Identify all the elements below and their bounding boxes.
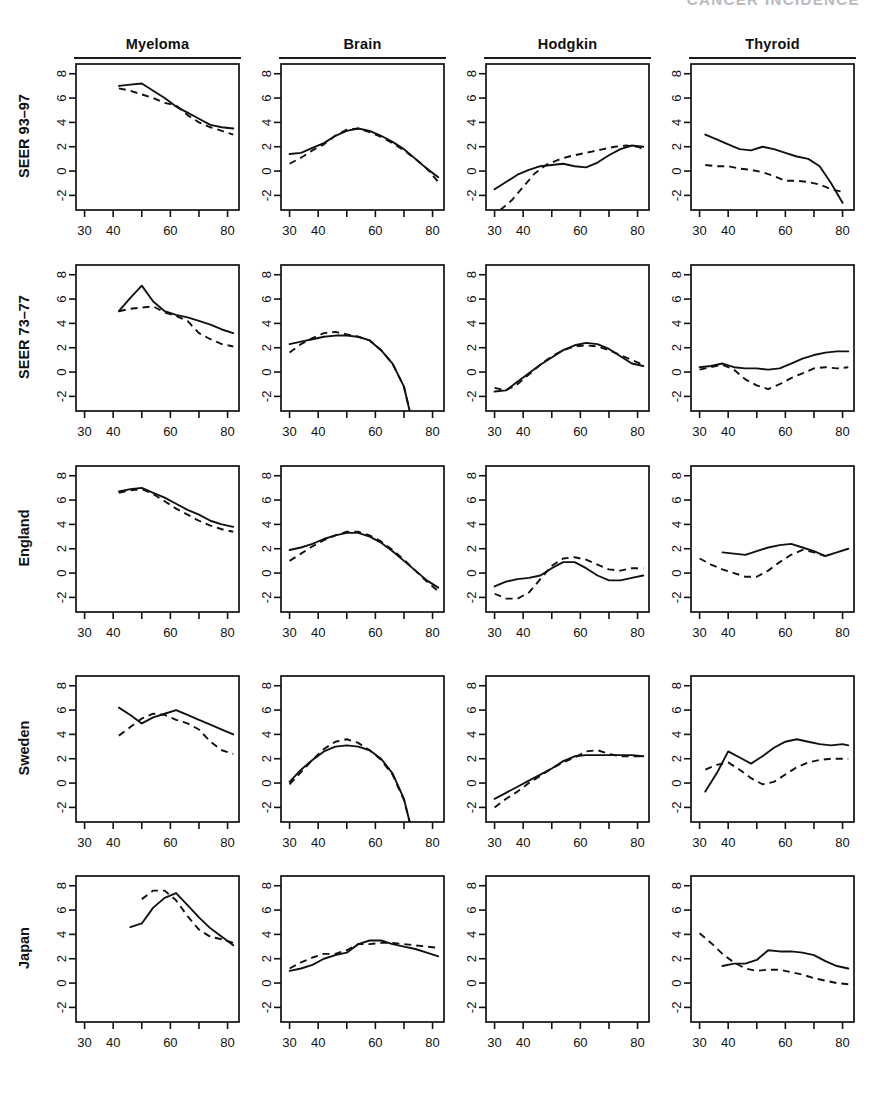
y-tick-label: 6 <box>465 706 480 713</box>
panel-japan-hodgkin: 30406080-202468 <box>440 866 661 1062</box>
x-tick-label: 30 <box>282 835 296 850</box>
curve-dashed <box>495 345 644 390</box>
plot-box <box>76 64 239 210</box>
y-tick-label: 4 <box>55 320 70 327</box>
x-tick-label: 30 <box>487 424 501 439</box>
column-header-myeloma: Myeloma <box>76 36 239 52</box>
x-tick-label: 30 <box>282 1035 296 1050</box>
x-tick-label: 80 <box>220 223 234 238</box>
x-tick-label: 80 <box>835 424 849 439</box>
x-tick-label: 60 <box>163 625 177 640</box>
curve-solid <box>119 488 233 527</box>
y-tick-label: 0 <box>670 979 685 986</box>
y-tick-label: 4 <box>260 119 275 126</box>
y-tick-label: 4 <box>260 521 275 528</box>
x-tick-label: 40 <box>516 835 530 850</box>
plot-box <box>691 876 854 1022</box>
plot-box <box>691 64 854 210</box>
panel-seer-73-77-myeloma: 30406080-202468 <box>30 255 251 451</box>
x-tick-label: 30 <box>77 835 91 850</box>
y-tick-label: 4 <box>55 119 70 126</box>
y-tick-label: 2 <box>465 545 480 552</box>
y-tick-label: 6 <box>465 906 480 913</box>
panel-seer-93-97-brain: 30406080-202468 <box>235 54 456 250</box>
x-tick-label: 60 <box>368 223 382 238</box>
x-tick-label: 40 <box>721 1035 735 1050</box>
y-tick-label: -2 <box>465 190 480 202</box>
y-tick-label: 8 <box>465 882 480 889</box>
x-tick-label: 30 <box>692 223 706 238</box>
y-tick-label: 6 <box>55 906 70 913</box>
y-tick-label: 4 <box>670 931 685 938</box>
y-tick-label: 4 <box>465 320 480 327</box>
y-tick-label: 0 <box>465 368 480 375</box>
y-tick-label: 2 <box>670 955 685 962</box>
x-tick-label: 80 <box>220 424 234 439</box>
y-tick-label: -2 <box>465 802 480 814</box>
y-tick-label: -2 <box>260 802 275 814</box>
x-tick-label: 60 <box>778 835 792 850</box>
y-tick-label: 0 <box>55 569 70 576</box>
y-tick-label: 8 <box>465 271 480 278</box>
curve-dashed <box>290 739 410 822</box>
y-tick-label: 6 <box>55 496 70 503</box>
y-tick-label: 8 <box>55 682 70 689</box>
curve-dashed <box>700 550 826 577</box>
y-tick-label: -2 <box>55 1002 70 1014</box>
plot-box <box>76 876 239 1022</box>
y-tick-label: 6 <box>670 496 685 503</box>
y-tick-label: 4 <box>465 119 480 126</box>
x-tick-label: 80 <box>425 424 439 439</box>
y-tick-label: 2 <box>260 955 275 962</box>
x-tick-label: 30 <box>487 835 501 850</box>
plot-box <box>691 265 854 411</box>
column-header-brain: Brain <box>281 36 444 52</box>
y-tick-label: 8 <box>55 882 70 889</box>
y-tick-label: 4 <box>465 731 480 738</box>
y-tick-label: 0 <box>55 979 70 986</box>
y-tick-label: 0 <box>465 167 480 174</box>
y-tick-label: 0 <box>260 167 275 174</box>
x-tick-label: 60 <box>778 223 792 238</box>
y-tick-label: 4 <box>670 731 685 738</box>
curve-solid <box>290 940 439 970</box>
curve-solid <box>119 708 233 735</box>
x-tick-label: 40 <box>106 835 120 850</box>
y-tick-label: 6 <box>465 496 480 503</box>
x-tick-label: 60 <box>163 835 177 850</box>
panel-england-brain: 30406080-202468 <box>235 456 456 652</box>
y-tick-label: 4 <box>55 731 70 738</box>
y-tick-label: -2 <box>670 592 685 604</box>
panel-seer-93-97-hodgkin: 30406080-202468 <box>440 54 661 250</box>
x-tick-label: 60 <box>368 424 382 439</box>
column-header-thyroid: Thyroid <box>691 36 854 52</box>
y-tick-label: 0 <box>55 779 70 786</box>
x-tick-label: 80 <box>835 835 849 850</box>
plot-box <box>281 466 444 612</box>
y-tick-label: 6 <box>55 295 70 302</box>
x-tick-label: 60 <box>778 625 792 640</box>
x-tick-label: 40 <box>106 1035 120 1050</box>
plot-box <box>76 265 239 411</box>
y-tick-label: 4 <box>465 521 480 528</box>
y-tick-label: 6 <box>260 496 275 503</box>
y-tick-label: 8 <box>670 682 685 689</box>
y-tick-label: 6 <box>260 906 275 913</box>
y-tick-label: 0 <box>55 167 70 174</box>
y-tick-label: 2 <box>55 545 70 552</box>
x-tick-label: 80 <box>630 1035 644 1050</box>
x-tick-label: 30 <box>282 625 296 640</box>
curve-solid <box>722 544 848 556</box>
y-tick-label: -2 <box>260 592 275 604</box>
x-tick-label: 40 <box>721 424 735 439</box>
panel-japan-myeloma: 30406080-202468 <box>30 866 251 1062</box>
y-tick-label: 6 <box>260 94 275 101</box>
y-tick-label: -2 <box>465 592 480 604</box>
y-tick-label: 4 <box>260 731 275 738</box>
y-tick-label: 8 <box>670 271 685 278</box>
x-tick-label: 30 <box>692 625 706 640</box>
curve-dashed <box>495 557 644 598</box>
y-tick-label: 2 <box>670 545 685 552</box>
curve-dashed <box>119 489 233 532</box>
panel-sweden-brain: 30406080-202468 <box>235 666 456 862</box>
